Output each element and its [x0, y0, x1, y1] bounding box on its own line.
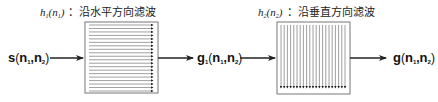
- svg-text:g1(n1,n2): g1(n1,n2): [197, 50, 242, 65]
- svg-text:h1(n1): h1(n1): [40, 6, 65, 19]
- intermediate-signal-label: g1(n1,n2): [197, 50, 242, 65]
- filter2-caption: h2(n2) ： 沿垂直方向滤波: [258, 5, 375, 19]
- filter1-caption: h1(n1) ： 沿水平方向滤波: [40, 5, 156, 19]
- svg-text:s(n1,n2): s(n1,n2): [8, 50, 49, 65]
- svg-text:h2(n2): h2(n2): [258, 6, 283, 19]
- filter-diagram: s(n1,n2) h1(n1) ： 沿水平方向滤波 g1(n1,n2) h2(n…: [0, 0, 438, 102]
- svg-text:g(n1,n2): g(n1,n2): [393, 50, 435, 65]
- svg-text:：: ：: [68, 6, 79, 19]
- filter1-box: [85, 22, 158, 93]
- input-signal-label: s(n1,n2): [8, 50, 49, 65]
- svg-text:沿水平方向滤波: 沿水平方向滤波: [79, 5, 156, 19]
- output-signal-label: g(n1,n2): [393, 50, 435, 65]
- svg-text:沿垂直方向滤波: 沿垂直方向滤波: [298, 5, 375, 19]
- filter2-box: [277, 22, 350, 94]
- svg-text:：: ：: [287, 6, 298, 19]
